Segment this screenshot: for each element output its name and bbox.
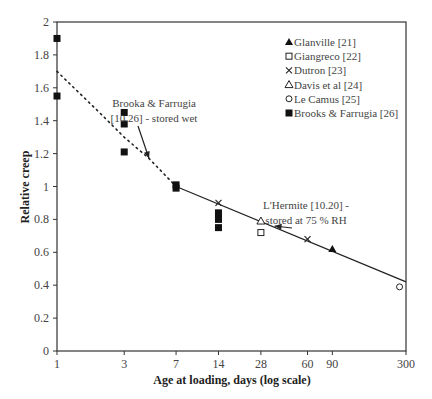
y-tick-label: 0.8 xyxy=(34,212,49,226)
open-square-marker xyxy=(258,230,264,236)
annotation-text: stored at 75 % RH xyxy=(265,214,346,226)
y-tick-label: 0 xyxy=(43,344,49,358)
annotation-text: [10.26] - stored wet xyxy=(111,112,198,124)
x-tick-label: 28 xyxy=(255,357,267,371)
filled-triangle-marker xyxy=(328,245,336,252)
legend-label: Dutron [23] xyxy=(294,64,346,76)
filled-square-marker xyxy=(173,185,180,192)
y-axis-label: Relative creep xyxy=(18,150,32,223)
annotation-text: L'Hermite [10.20] - xyxy=(263,199,349,211)
x-axis-label: Age at loading, days (log scale) xyxy=(153,373,310,387)
legend-open-square-icon xyxy=(286,53,292,59)
y-tick-label: 0.6 xyxy=(34,245,49,259)
x-axis-ticks: 13714286090300 xyxy=(54,351,415,371)
legend-filled-square-icon xyxy=(286,110,293,117)
filled-square-marker xyxy=(121,148,128,155)
legend-label: Davis et al [24] xyxy=(294,79,362,91)
legend-label: Giangreco [22] xyxy=(294,50,361,62)
data-points xyxy=(54,35,403,290)
y-tick-label: 2 xyxy=(43,15,49,29)
legend: Glanville [21]Giangreco [22]Dutron [23]D… xyxy=(285,36,398,119)
y-tick-label: 0.2 xyxy=(34,311,49,325)
dotted-trend-curve xyxy=(57,71,176,186)
y-tick-label: 1.6 xyxy=(34,81,49,95)
filled-square-marker xyxy=(54,35,61,42)
x-tick-label: 14 xyxy=(212,357,224,371)
y-tick-label: 1.2 xyxy=(34,147,49,161)
x-tick-label: 3 xyxy=(121,357,127,371)
y-tick-label: 1 xyxy=(43,180,49,194)
x-tick-label: 300 xyxy=(397,357,415,371)
y-tick-label: 1.4 xyxy=(34,114,49,128)
x-tick-label: 90 xyxy=(326,357,338,371)
legend-open-triangle-icon xyxy=(285,81,293,88)
relative-creep-chart: 00.20.40.60.811.21.41.61.82 137142860903… xyxy=(0,0,432,399)
x-tick-label: 7 xyxy=(173,357,179,371)
plot-border xyxy=(57,22,406,351)
legend-label: Le Camus [25] xyxy=(294,93,360,105)
filled-square-marker xyxy=(54,93,61,100)
y-axis-ticks: 00.20.40.60.811.21.41.61.82 xyxy=(34,15,57,358)
x-tick-label: 1 xyxy=(54,357,60,371)
y-tick-label: 0.4 xyxy=(34,278,49,292)
legend-filled-triangle-icon xyxy=(285,38,293,45)
filled-square-marker xyxy=(215,216,222,223)
filled-square-marker xyxy=(215,224,222,231)
filled-square-marker xyxy=(215,209,222,216)
open-circle-marker xyxy=(397,284,403,290)
legend-open-circle-icon xyxy=(286,96,292,102)
legend-label: Brooks & Farrugia [26] xyxy=(294,107,398,119)
annotation-text: Brooka & Farrugia xyxy=(112,97,196,109)
y-tick-label: 1.8 xyxy=(34,48,49,62)
plot-frame xyxy=(57,22,406,351)
x-tick-label: 60 xyxy=(302,357,314,371)
legend-label: Glanville [21] xyxy=(294,36,356,48)
